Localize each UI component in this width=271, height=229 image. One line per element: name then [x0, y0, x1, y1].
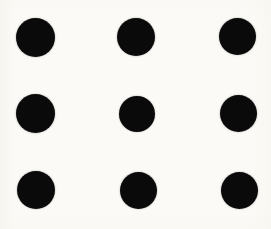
- dot-marker: [16, 94, 55, 133]
- dot-marker: [117, 18, 155, 56]
- dot-marker: [17, 171, 55, 209]
- dot-marker: [120, 172, 157, 209]
- dot-marker: [220, 95, 257, 132]
- dot-marker: [219, 18, 256, 55]
- dot-marker: [119, 96, 155, 132]
- dot-marker: [221, 172, 258, 209]
- dot-grid-figure: [0, 0, 271, 229]
- dot-marker: [16, 18, 55, 57]
